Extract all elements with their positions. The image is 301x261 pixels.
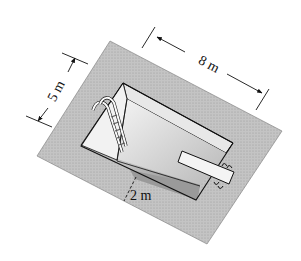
- length-label: 8 m: [196, 52, 222, 75]
- depth-label: 2 m: [130, 188, 152, 203]
- width-label: 5 m: [44, 78, 67, 104]
- swimming-pool-diagram: 5 m 8 m 2 m: [0, 0, 301, 261]
